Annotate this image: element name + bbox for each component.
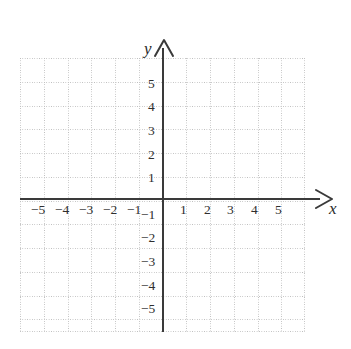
- gridline-vertical: [20, 58, 21, 332]
- y-tick-label-4: 4: [148, 100, 155, 114]
- gridline-vertical: [281, 58, 282, 332]
- gridline-vertical: [44, 58, 45, 332]
- x-tick-label-neg5: −5: [31, 203, 45, 217]
- x-axis-label: x: [329, 200, 337, 217]
- arrow-up-icon: [152, 36, 176, 58]
- y-tick-label-2: 2: [148, 148, 155, 162]
- gridline-vertical: [304, 58, 305, 332]
- gridline-vertical: [139, 58, 140, 332]
- x-tick-label-1: 1: [180, 203, 187, 217]
- x-tick-label-3: 3: [227, 203, 234, 217]
- y-axis-label: y: [144, 40, 152, 57]
- x-tick-label-neg2: −2: [103, 203, 117, 217]
- y-axis-line: [162, 48, 164, 332]
- y-tick-label-neg5: −5: [141, 302, 155, 316]
- y-tick-label-neg4: −4: [141, 279, 155, 293]
- gridline-vertical: [115, 58, 116, 332]
- y-tick-label-3: 3: [148, 124, 155, 138]
- y-tick-label-neg1: −1: [141, 208, 155, 222]
- y-tick-label-neg2: −2: [141, 231, 155, 245]
- gridline-vertical: [210, 58, 211, 332]
- gridline-vertical: [234, 58, 235, 332]
- gridline-vertical: [258, 58, 259, 332]
- x-tick-label-5: 5: [275, 203, 282, 217]
- x-tick-label-2: 2: [204, 203, 211, 217]
- x-tick-label-neg1: −1: [127, 203, 141, 217]
- gridline-vertical: [186, 58, 187, 332]
- x-tick-label-4: 4: [251, 203, 258, 217]
- y-tick-label-neg3: −3: [141, 255, 155, 269]
- y-tick-label-1: 1: [148, 171, 155, 185]
- coordinate-plane-figure: y x −5 −4 −3 −2 −1 1 2 3 4 5 5 4 3 2 1 −…: [0, 0, 351, 349]
- gridline-vertical: [68, 58, 69, 332]
- x-axis-line: [20, 198, 320, 200]
- x-tick-label-neg4: −4: [55, 203, 69, 217]
- gridline-vertical: [91, 58, 92, 332]
- y-tick-label-5: 5: [148, 77, 155, 91]
- x-tick-label-neg3: −3: [79, 203, 93, 217]
